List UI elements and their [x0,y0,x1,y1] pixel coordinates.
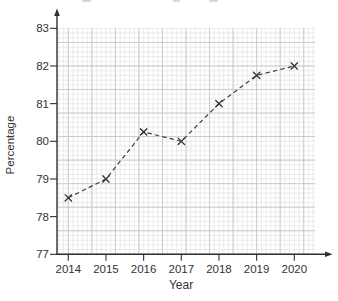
x-tick-label: 2014 [56,263,82,275]
y-tick-label: 81 [36,98,49,110]
x-axis-ticks: 2014201520162017201820192020 [56,254,308,274]
y-tick-label: 79 [36,173,49,185]
y-axis-arrow-icon [54,9,60,17]
cropped-text-mark [82,0,91,2]
x-tick-label: 2017 [169,263,195,275]
y-axis-ticks: 77787980818283 [36,22,57,260]
x-tick-label: 2016 [131,263,157,275]
y-tick-label: 78 [36,211,49,223]
y-tick-label: 77 [36,248,49,260]
line-chart-canvas: 7778798081828320142015201620172018201920… [0,0,338,301]
cropped-text-remnant [82,0,218,2]
y-tick-label: 82 [36,60,49,72]
x-tick-label: 2019 [244,263,270,275]
y-tick-label: 83 [36,22,49,34]
x-tick-label: 2020 [282,263,308,275]
cropped-text-mark [209,0,218,2]
x-tick-label: 2015 [93,263,119,275]
axes [54,9,332,258]
cropped-text-mark [173,0,180,2]
x-tick-label: 2018 [206,263,232,275]
y-tick-label: 80 [36,135,49,147]
x-axis-title: Year [169,278,193,292]
line-chart-figure: 7778798081828320142015201620172018201920… [0,0,338,301]
grid [57,28,315,254]
y-axis-title: Percentage [4,116,16,175]
x-axis-arrow-icon [325,252,333,258]
